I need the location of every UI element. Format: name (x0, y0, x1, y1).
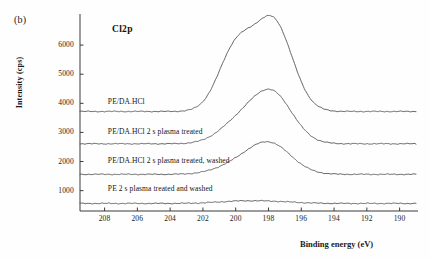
y-axis-label: Intensity (cps) (15, 38, 24, 128)
x-axis-label: Binding energy (eV) (300, 239, 373, 249)
x-tick-label: 196 (288, 214, 314, 223)
x-tick-label: 202 (190, 214, 216, 223)
curve-label: PE 2 s plasma treated and washed (108, 184, 213, 193)
y-tick-label: 2000 (40, 157, 74, 166)
y-tick-label: 1000 (40, 186, 74, 195)
y-tick-label: 3000 (40, 127, 74, 136)
curve-label: PE/DA.HCl 2 s plasma treated (108, 127, 203, 136)
x-tick-label: 200 (223, 214, 249, 223)
y-tick-label: 6000 (40, 40, 74, 49)
x-tick-label: 194 (321, 214, 347, 223)
curve-label: PE/DA.HCl (108, 97, 145, 106)
spectrum-curve (80, 200, 416, 204)
y-tick-label: 5000 (40, 69, 74, 78)
x-tick-label: 204 (157, 214, 183, 223)
x-tick-label: 206 (124, 214, 150, 223)
curve-label: PE/DA.HCl 2 s plasma treated, washed (108, 156, 230, 165)
panel-label: (b) (14, 14, 26, 25)
plot-area (80, 16, 416, 211)
x-tick-label: 208 (92, 214, 118, 223)
figure-panel: (b) Intensity (cps) Cl2p 100020003000400… (0, 0, 430, 261)
x-tick-label: 192 (354, 214, 380, 223)
y-tick-label: 4000 (40, 98, 74, 107)
x-tick-label: 198 (255, 214, 281, 223)
x-tick-label: 190 (387, 214, 413, 223)
